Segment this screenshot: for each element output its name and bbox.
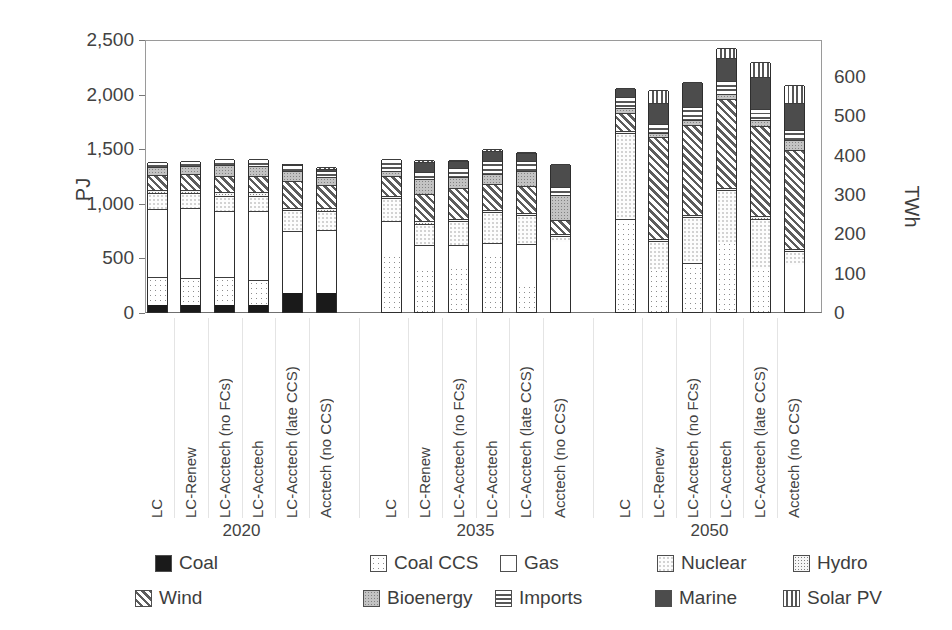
left-axis-tickmark [139, 258, 145, 259]
label-separator [777, 318, 778, 518]
segment-solarpv [649, 90, 668, 103]
label-separator [543, 318, 544, 518]
segment-bioenergy [517, 171, 536, 186]
segment-gas [317, 230, 336, 293]
segment-imports [517, 161, 536, 171]
category-label: LC-Acctech [715, 320, 737, 518]
legend-label: Solar PV [807, 587, 882, 609]
legend-item-imports: Imports [495, 587, 582, 609]
segment-solarpv [717, 48, 736, 58]
segment-coalccs [517, 285, 536, 312]
segment-gas [148, 209, 167, 277]
legend-label: Marine [679, 587, 737, 609]
category-label: LC-Acctech (late CCS) [515, 320, 537, 518]
legend-label: Coal [179, 552, 218, 574]
segment-coalccs [415, 269, 434, 312]
segment-wind [283, 181, 302, 208]
segment-marine [717, 58, 736, 81]
segment-gas [181, 208, 200, 277]
segment-wind [449, 188, 468, 220]
segment-imports [483, 161, 502, 174]
legend-label: Bioenergy [387, 587, 473, 609]
segment-wind [215, 176, 234, 192]
label-separator [710, 318, 711, 518]
segment-coalccs [649, 269, 668, 312]
segment-gas [449, 245, 468, 267]
left-axis-tick-label: 1,500 [64, 138, 134, 160]
bar-2020-2 [180, 162, 201, 313]
bar-2035-3 [448, 161, 469, 313]
left-axis-tick-label: 2,000 [64, 83, 134, 105]
segment-gas [483, 243, 502, 256]
label-separator [242, 318, 243, 518]
legend-label: Coal CCS [394, 552, 478, 574]
segment-wind [785, 150, 804, 249]
segment-imports [616, 97, 635, 108]
segment-wind [249, 176, 268, 192]
imports-swatch-icon [495, 590, 512, 607]
segment-imports [785, 130, 804, 140]
segment-wind [317, 185, 336, 208]
segment-nuclear [683, 217, 702, 263]
left-axis-tick-label: 2,500 [64, 29, 134, 51]
legend-item-wind: Wind [135, 587, 202, 609]
bar-2035-2 [414, 161, 435, 313]
coal-swatch-icon [155, 555, 172, 572]
bar-2050-6 [784, 86, 805, 313]
segment-wind [483, 184, 502, 210]
legend-item-coalccs: Coal CCS [370, 552, 478, 574]
bar-2035-6 [550, 165, 571, 313]
segment-nuclear [317, 211, 336, 230]
year-label: 2050 [650, 521, 770, 541]
bar-2050-2 [648, 91, 669, 313]
label-separator [208, 318, 209, 518]
category-label: LC-Acctech (no FCs) [448, 320, 470, 518]
chart-canvas: 05001,0001,5002,0002,500 010020030040050… [0, 0, 952, 630]
segment-coalccs [249, 280, 268, 305]
segment-nuclear [148, 193, 167, 209]
segment-coalccs [215, 277, 234, 305]
right-axis-tick-label: 400 [834, 144, 904, 166]
right-axis-tick-label: 0 [834, 302, 904, 324]
segment-bioenergy [215, 165, 234, 176]
segment-gas [517, 244, 536, 284]
legend-item-bioenergy: Bioenergy [363, 587, 473, 609]
segment-coalccs [717, 242, 736, 312]
segment-bioenergy [283, 171, 302, 181]
legend-label: Nuclear [681, 552, 746, 574]
segment-imports [382, 159, 401, 171]
segment-coalccs [751, 269, 770, 312]
segment-nuclear [616, 133, 635, 219]
segment-nuclear [751, 219, 770, 269]
bar-2035-5 [516, 153, 537, 313]
nuclear-swatch-icon [657, 555, 674, 572]
category-label: LC-Acctech (no FCs) [214, 320, 236, 518]
segment-coal [215, 305, 234, 312]
legend-label: Gas [524, 552, 559, 574]
segment-nuclear [249, 196, 268, 211]
bar-2020-6 [316, 168, 337, 313]
bar-2020-3 [214, 160, 235, 313]
segment-coalccs [382, 255, 401, 312]
label-separator [593, 318, 594, 518]
segment-imports [751, 109, 770, 120]
marine-swatch-icon [655, 590, 672, 607]
segment-wind [717, 99, 736, 187]
category-label: LC [146, 320, 168, 518]
label-separator [275, 318, 276, 518]
segment-bioenergy [148, 167, 167, 175]
right-axis-tick-label: 500 [834, 105, 904, 127]
category-label: LC-Acctech (no FCs) [682, 320, 704, 518]
category-label: LC-Acctech (late CCS) [749, 320, 771, 518]
segment-solarpv [785, 85, 804, 103]
segment-marine [551, 164, 570, 187]
left-axis-tickmark [139, 95, 145, 96]
left-axis-tick-label: 0 [64, 302, 134, 324]
segment-gas [785, 265, 804, 312]
segment-bioenergy [317, 177, 336, 186]
category-label: LC [380, 320, 402, 518]
segment-marine [449, 161, 468, 168]
segment-gas [283, 231, 302, 293]
segment-marine [415, 162, 434, 172]
segment-coal [283, 293, 302, 312]
